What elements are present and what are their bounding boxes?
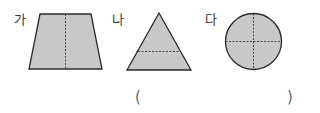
- answer-blank[interactable]: [145, 89, 285, 105]
- answer-close-paren: ): [287, 89, 293, 105]
- answer-open-paren: (: [135, 89, 141, 105]
- circle-figure: [226, 14, 282, 70]
- triangle-figure: [127, 13, 191, 70]
- trapezoid-figure: [29, 14, 102, 69]
